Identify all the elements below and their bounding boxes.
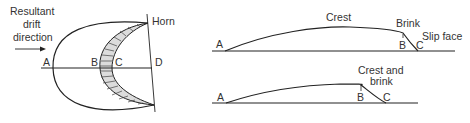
- horn-label: Horn: [152, 15, 175, 27]
- drift-arrow-icon: [15, 47, 46, 52]
- crest-label: Crest: [326, 11, 351, 23]
- point-a: A: [216, 38, 223, 50]
- profile-top: Crest Brink Slip face A B C: [212, 11, 462, 51]
- barchan-dune-diagram: Resultant drift direction: [0, 0, 470, 123]
- drift-label-line2: drift: [23, 18, 41, 30]
- point-b: B: [357, 91, 364, 103]
- point-c: C: [416, 39, 424, 51]
- crest-brink-label-line2: brink: [370, 75, 394, 87]
- drift-label-line3: direction: [13, 31, 53, 43]
- profile-bottom: Crest and brink A B C: [212, 64, 418, 103]
- slip-face-crescent: [100, 23, 154, 105]
- brink-label: Brink: [396, 17, 421, 29]
- point-c: C: [115, 56, 123, 68]
- drift-label-line1: Resultant: [10, 5, 54, 17]
- point-b: B: [399, 39, 406, 51]
- point-d: D: [155, 56, 163, 68]
- point-c: C: [383, 91, 391, 103]
- dune-profile: [225, 27, 418, 51]
- point-a: A: [217, 91, 224, 103]
- plan-view: Resultant drift direction: [10, 5, 175, 112]
- slip-face-label: Slip face: [422, 30, 462, 42]
- point-a: A: [43, 56, 50, 68]
- horn-line: [147, 14, 155, 112]
- point-b: B: [91, 56, 98, 68]
